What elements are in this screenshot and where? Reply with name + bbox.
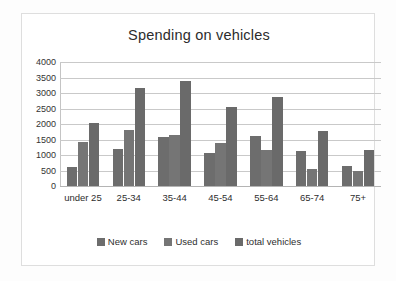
bar[interactable]: [124, 130, 135, 186]
bar-group: [158, 62, 191, 186]
chart-legend: New carsUsed carstotal vehicles: [22, 236, 376, 247]
x-axis-tick-label: 65-74: [289, 192, 335, 203]
bar[interactable]: [296, 151, 307, 186]
legend-swatch-icon: [97, 238, 105, 246]
bar-group: [204, 62, 237, 186]
bar-group: [296, 62, 329, 186]
bar[interactable]: [135, 88, 146, 186]
x-axis-tick-label: 25-34: [106, 192, 152, 203]
bar-group: [342, 62, 375, 186]
legend-item[interactable]: Used cars: [164, 236, 218, 247]
x-axis-tick-label: 35-44: [152, 192, 198, 203]
bar[interactable]: [180, 81, 191, 186]
bar[interactable]: [342, 166, 353, 186]
scanned-page-background: Spending on vehicles 0500100015002000250…: [0, 0, 396, 281]
bar-group: [250, 62, 283, 186]
bar[interactable]: [261, 150, 272, 186]
x-axis-tick-labels: under 2525-3435-4445-5455-6465-7475+: [60, 192, 381, 206]
bar[interactable]: [158, 137, 169, 186]
bar[interactable]: [364, 150, 375, 186]
y-axis-tick-label: 500: [41, 167, 56, 176]
x-axis-tick-label: 75+: [335, 192, 381, 203]
bar[interactable]: [272, 97, 283, 186]
y-axis-tick-label: 0: [51, 182, 56, 191]
legend-item[interactable]: New cars: [97, 236, 148, 247]
bar[interactable]: [226, 107, 237, 186]
x-axis-tick-label: under 25: [60, 192, 106, 203]
bar-group: [67, 62, 100, 186]
y-axis-tick-label: 3000: [36, 89, 56, 98]
legend-item[interactable]: total vehicles: [235, 236, 301, 247]
gridline: [60, 186, 381, 187]
bar[interactable]: [67, 167, 78, 186]
legend-label: total vehicles: [246, 236, 301, 247]
y-axis-tick-label: 1000: [36, 151, 56, 160]
bar[interactable]: [215, 143, 226, 186]
bar[interactable]: [204, 153, 215, 186]
plot-area: [60, 62, 381, 186]
bar[interactable]: [113, 149, 124, 186]
y-axis-tick-label: 2000: [36, 120, 56, 129]
legend-label: New cars: [108, 236, 148, 247]
bar[interactable]: [318, 131, 329, 186]
bar[interactable]: [78, 142, 89, 186]
chart-title: Spending on vehicles: [22, 27, 376, 43]
y-axis-tick-labels: 05001000150020002500300035004000: [22, 62, 56, 186]
x-axis-tick-label: 55-64: [243, 192, 289, 203]
chart-frame: Spending on vehicles 0500100015002000250…: [21, 13, 375, 266]
bar[interactable]: [307, 169, 318, 186]
bar-group: [113, 62, 146, 186]
y-axis-tick-label: 1500: [36, 136, 56, 145]
legend-swatch-icon: [235, 238, 243, 246]
bar[interactable]: [250, 136, 261, 186]
bar[interactable]: [169, 135, 180, 186]
bar[interactable]: [353, 171, 364, 186]
y-axis-tick-label: 3500: [36, 74, 56, 83]
y-axis-tick-label: 2500: [36, 105, 56, 114]
bar[interactable]: [89, 123, 100, 186]
legend-label: Used cars: [175, 236, 218, 247]
legend-swatch-icon: [164, 238, 172, 246]
y-axis-tick-label: 4000: [36, 58, 56, 67]
x-axis-tick-label: 45-54: [198, 192, 244, 203]
